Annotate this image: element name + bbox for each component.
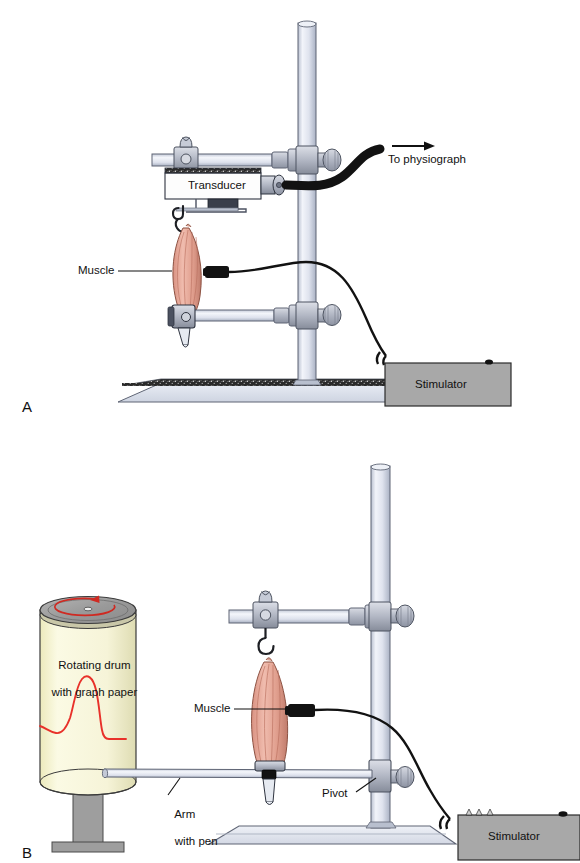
vertical-stand-rod-a — [293, 21, 321, 385]
stimulator-terminals-b — [466, 809, 493, 815]
arm-with-pen-label: Arm with pen — [162, 794, 242, 863]
wing-nut-clamp-a — [174, 137, 198, 171]
stimulator-label-a: Stimulator — [415, 378, 467, 392]
transducer-label: Transducer — [188, 179, 246, 193]
panel-b: Rotating drum with graph paper Muscle Ar… — [0, 430, 580, 860]
panel-letter-a: A — [22, 398, 32, 415]
stimulating-electrode-b — [285, 704, 315, 717]
stimulator-label-b: Stimulator — [488, 830, 540, 844]
to-physiograph-arrow — [392, 142, 435, 151]
rotating-drum-label: Rotating drum with graph paper — [18, 645, 158, 714]
muscle-hook-b — [259, 628, 274, 654]
arm-with-pen — [102, 769, 372, 778]
wing-nut-clamp-b — [253, 591, 278, 628]
arm-leader-line — [168, 778, 180, 795]
pivot-label: Pivot — [322, 787, 348, 801]
upper-clamp-knob-a — [296, 146, 341, 174]
drum-label-line2: with graph paper — [52, 686, 138, 698]
panel-a: Transducer To physiograph Muscle Stimula… — [0, 0, 580, 430]
arm-label-line2: with pen — [175, 835, 218, 847]
pivot-clamp — [369, 760, 414, 792]
muscle-arm-attachment-b — [255, 761, 285, 805]
drum-label-line1: Rotating drum — [58, 659, 130, 671]
arm-label-line1: Arm — [174, 808, 195, 820]
panel-a-illustration — [0, 0, 580, 430]
stimulating-electrode-a — [203, 266, 229, 278]
muscle-label-a: Muscle — [78, 264, 114, 278]
rotating-drum — [40, 596, 136, 853]
panel-letter-b: B — [22, 844, 32, 861]
stand-base-b — [209, 826, 456, 844]
muscle-label-b: Muscle — [194, 702, 230, 716]
muscle-holder-clamp-a — [168, 305, 195, 347]
to-physiograph-label: To physiograph — [388, 153, 466, 167]
